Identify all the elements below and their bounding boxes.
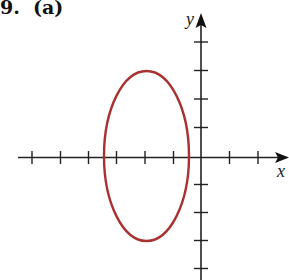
coordinate-plot: x y	[0, 0, 289, 280]
y-axis-label: y	[184, 9, 194, 29]
x-axis: x	[18, 151, 289, 181]
x-axis-label: x	[276, 161, 285, 181]
